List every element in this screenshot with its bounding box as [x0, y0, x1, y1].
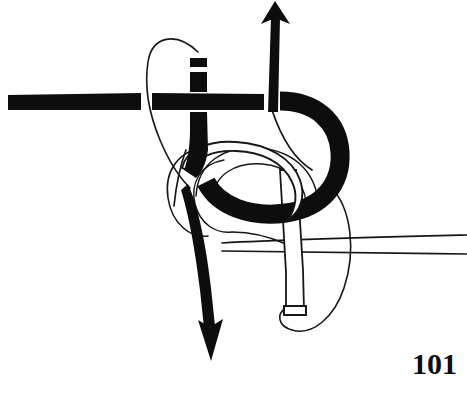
white-tail-end-icon [284, 306, 306, 315]
horizontal-strap-middle-icon [152, 93, 264, 110]
horizontal-strap-left-icon [8, 93, 141, 110]
vertical-strap-top-nub-icon [190, 58, 207, 67]
knot-illustration [0, 0, 467, 393]
vertical-strap-upper-icon [190, 72, 207, 92]
figure-number-label: 101 [412, 349, 457, 379]
knot-diagram-figure: 101 [0, 0, 467, 393]
horizontal-black-strap [8, 93, 264, 110]
